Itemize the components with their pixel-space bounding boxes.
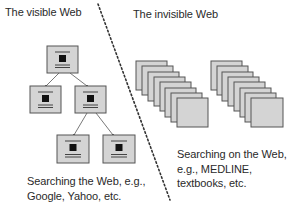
- page-image-icon: [42, 95, 49, 102]
- web-page-node-right-child: [75, 86, 106, 113]
- edge-right-grandchild-left: [74, 113, 87, 135]
- caption-line: textbooks, etc.: [177, 176, 287, 191]
- page-image-icon: [87, 95, 94, 102]
- stack-page: [251, 98, 283, 127]
- caption-line: Google, Yahoo, etc.: [27, 189, 145, 204]
- page-image-icon: [59, 55, 66, 62]
- visible-web-caption: Searching the Web, e.g., Google, Yahoo, …: [27, 174, 145, 203]
- web-page-node-left-child: [30, 86, 61, 113]
- edge-root-left: [46, 73, 59, 86]
- invisible-web-caption: Searching on the Web, e.g., MEDLINE, tex…: [177, 147, 287, 191]
- document-stack-2: [211, 61, 283, 127]
- caption-line: e.g., MEDLINE,: [177, 162, 287, 177]
- visible-web-title: The visible Web: [5, 5, 82, 19]
- edge-right-grandchild-right: [96, 113, 113, 135]
- invisible-web-title: The invisible Web: [133, 7, 218, 21]
- stack-page: [177, 98, 208, 127]
- web-page-node-grandchild-right: [103, 135, 135, 163]
- caption-line: Searching on the Web,: [177, 147, 287, 162]
- edge-root-right: [70, 73, 87, 86]
- page-image-icon: [70, 144, 77, 151]
- web-page-node-root: [47, 46, 78, 73]
- web-page-node-grandchild-left: [57, 135, 89, 163]
- page-image-icon: [116, 144, 123, 151]
- document-stack-1: [136, 61, 208, 127]
- caption-line: Searching the Web, e.g.,: [27, 174, 145, 189]
